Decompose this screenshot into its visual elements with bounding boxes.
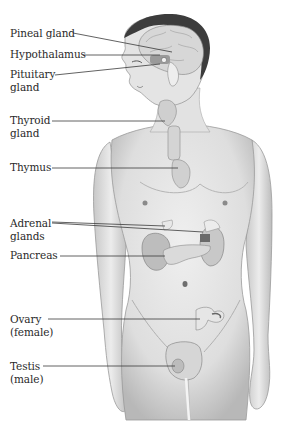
label-text: gland xyxy=(10,127,50,140)
label-text: Ovary xyxy=(10,313,53,326)
label-thymus: Thymus xyxy=(10,161,51,174)
label-adrenal-glands: Adrenal glands xyxy=(10,217,51,243)
label-hypothalamus: Hypothalamus xyxy=(10,48,86,61)
label-pancreas: Pancreas xyxy=(10,249,58,262)
label-text: Thyroid xyxy=(10,114,50,127)
label-text: Testis xyxy=(10,360,43,373)
label-text: (female) xyxy=(10,326,53,339)
label-text: (male) xyxy=(10,373,43,386)
label-text: gland xyxy=(10,81,55,94)
label-text: Adrenal xyxy=(10,217,51,230)
label-ovary: Ovary (female) xyxy=(10,313,53,339)
label-text: Thymus xyxy=(10,161,51,174)
label-pineal-gland: Pineal gland xyxy=(10,27,75,40)
label-text: Pituitary xyxy=(10,68,55,81)
label-testis: Testis (male) xyxy=(10,360,43,386)
label-thyroid-gland: Thyroid gland xyxy=(10,114,50,140)
label-text: Pineal gland xyxy=(10,27,75,40)
endocrine-diagram: Pineal gland Hypothalamus Pituitary glan… xyxy=(0,0,295,430)
label-text: Hypothalamus xyxy=(10,48,86,61)
label-text: Pancreas xyxy=(10,249,58,262)
label-text: glands xyxy=(10,230,51,243)
human-figure-illustration xyxy=(0,0,295,430)
label-pituitary-gland: Pituitary gland xyxy=(10,68,55,94)
